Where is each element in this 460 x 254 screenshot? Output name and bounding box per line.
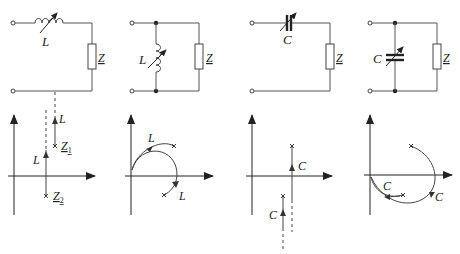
circuit-locus-figure: L Z L Z1 L Z2: [0, 0, 460, 254]
input-terminal-top: [11, 21, 15, 25]
panel-series-inductor: L Z L Z1 L Z2: [8, 13, 105, 215]
arc-lower: [132, 151, 177, 195]
input-terminal-bottom: [130, 89, 134, 93]
inductor-label: L: [41, 34, 49, 49]
capacitor-label: C: [373, 51, 382, 66]
load-impedance-icon: [195, 44, 203, 69]
locus-label-upper: L: [58, 112, 66, 126]
inductor-label: L: [138, 52, 146, 67]
arc-upper: [132, 144, 174, 170]
locus-label-upper: C: [298, 159, 307, 173]
load-label: Z: [98, 51, 105, 65]
load-impedance-icon: [88, 44, 96, 69]
locus-series-capacitor: C C: [246, 115, 332, 252]
locus-shunt-inductor: L L: [125, 115, 213, 215]
panel-series-capacitor: C Z C C: [246, 13, 343, 252]
circuit-shunt-inductor: L Z: [130, 21, 213, 93]
load-impedance-icon: [433, 44, 441, 69]
panel-shunt-capacitor: C Z C C: [364, 21, 452, 215]
arc-label-right: C: [435, 190, 444, 204]
input-terminal-top: [368, 21, 372, 25]
locus-label-lower: C: [269, 208, 278, 222]
locus-label-lower: L: [32, 153, 40, 167]
circuit-shunt-capacitor: C Z: [368, 21, 450, 93]
input-terminal-top: [250, 21, 254, 25]
load-label: Z: [336, 51, 343, 65]
load-impedance-icon: [326, 44, 334, 69]
arc-label-upper: L: [147, 131, 155, 145]
input-terminal-bottom: [11, 89, 15, 93]
variable-arrow-icon: [40, 13, 57, 33]
panel-shunt-inductor: L Z L L: [125, 21, 213, 215]
capacitor-label: C: [283, 32, 292, 47]
input-terminal-bottom: [250, 89, 254, 93]
load-label: Z: [443, 51, 450, 65]
locus-series-inductor: L Z1 L Z2: [8, 92, 95, 215]
input-terminal-top: [130, 21, 134, 25]
arc-label-lower: L: [178, 189, 186, 203]
point-z2-label: Z2: [53, 189, 64, 205]
input-terminal-bottom: [368, 89, 372, 93]
circuit-series-capacitor: C Z: [250, 13, 343, 93]
locus-shunt-capacitor: C C: [364, 115, 452, 215]
circuit-series-inductor: L Z: [11, 13, 105, 93]
arc-label-inner: C: [383, 179, 392, 193]
load-label: Z: [206, 51, 213, 65]
point-z1-label: Z1: [61, 139, 72, 155]
